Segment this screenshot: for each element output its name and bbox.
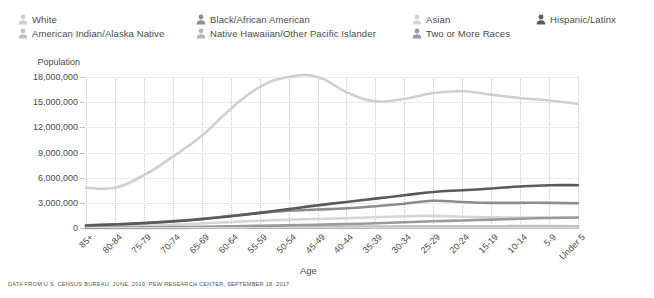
line-chart: Population 18,000,00015,000,00012,000,00… — [0, 0, 654, 298]
source-note: DATA FROM U.S. CENSUS BUREAU, JUNE, 2019… — [8, 281, 289, 287]
x-axis-title: Age — [300, 265, 317, 276]
y-axis-tick-label: 3,000,000 — [0, 199, 78, 208]
x-axis-line — [86, 227, 578, 228]
y-axis-tick-label: 12,000,000 — [0, 123, 78, 132]
y-axis-tick-label: 9,000,000 — [0, 149, 78, 158]
y-axis-tick-label: 18,000,000 — [0, 73, 78, 82]
y-axis-tick-mark — [80, 127, 85, 128]
y-axis-tick-mark — [80, 102, 85, 103]
series-lines — [86, 77, 578, 228]
y-axis-title: Population — [0, 57, 80, 67]
y-axis-tick-mark — [80, 77, 85, 78]
y-axis-tick-mark — [80, 153, 85, 154]
y-axis-tick-label: 15,000,000 — [0, 98, 78, 107]
y-axis-tick-label: 6,000,000 — [0, 174, 78, 183]
y-axis-tick-label: 0 — [0, 224, 78, 233]
series-line-white — [86, 75, 578, 189]
chart-page: WhiteAmerican Indian/Alaska NativeBlack/… — [0, 0, 654, 298]
y-axis-tick-mark — [80, 178, 85, 179]
y-axis-tick-mark — [80, 203, 85, 204]
x-axis-tick-label: 85+ — [3, 232, 95, 298]
y-axis-tick-mark — [80, 228, 85, 229]
gridline-vertical — [578, 77, 580, 228]
plot-area — [86, 77, 578, 228]
